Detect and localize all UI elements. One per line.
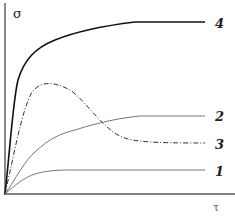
curve-4: [5, 22, 205, 194]
y-axis-label: σ: [13, 6, 22, 21]
x-axis-label: τ: [213, 201, 219, 214]
stress-strain-chart: σ τ 4 2 3 1: [0, 0, 235, 217]
curve-2: [5, 116, 205, 194]
curve-label-3: 3: [215, 137, 224, 152]
curve-3: [5, 84, 205, 195]
curve-label-2: 2: [214, 109, 224, 124]
curve-1: [5, 170, 205, 194]
curve-label-1: 1: [215, 164, 224, 179]
curve-label-4: 4: [215, 16, 224, 31]
